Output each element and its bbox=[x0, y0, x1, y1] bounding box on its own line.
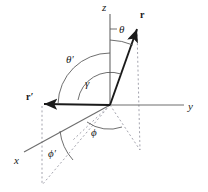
angle-label-phi-prime-mark: ′ bbox=[54, 148, 56, 159]
x-axis-line bbox=[24, 105, 110, 152]
axis-label-y: y bbox=[188, 101, 193, 112]
r-vertical-dashed bbox=[137, 30, 140, 150]
axis-label-x: x bbox=[14, 155, 19, 166]
theta-arc bbox=[110, 40, 133, 45]
axis-label-z: z bbox=[102, 2, 106, 13]
projection-lines bbox=[42, 30, 140, 185]
r-ground-projection-dashed bbox=[110, 105, 140, 150]
vector-r-prime-line bbox=[44, 104, 110, 105]
angle-label-gamma: γ bbox=[85, 78, 89, 89]
vectors bbox=[44, 29, 137, 105]
vector-label-r-prime-mark: ′ bbox=[30, 91, 33, 102]
angle-label-theta: θ bbox=[119, 24, 124, 35]
angle-label-theta-prime: θ′ bbox=[66, 54, 74, 65]
angle-label-theta-prime-mark: ′ bbox=[71, 54, 73, 65]
angle-label-phi: ϕ bbox=[91, 127, 97, 138]
angle-label-phi-prime: ϕ′ bbox=[48, 148, 56, 159]
r-prime-ground-projection-dashed bbox=[42, 105, 110, 185]
vector-label-r: r bbox=[140, 10, 144, 20]
coordinate-axes bbox=[24, 14, 184, 152]
spherical-coordinates-diagram: z y x r r′ θ θ′ γ ϕ ϕ′ bbox=[0, 0, 208, 192]
vector-label-r-prime: r′ bbox=[26, 92, 33, 102]
